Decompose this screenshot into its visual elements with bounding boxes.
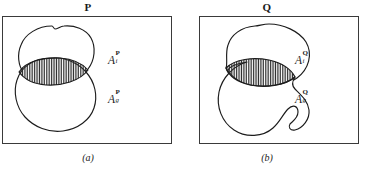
panel-b-diagram [185,0,371,175]
set-label-b-i-subscript: i [303,58,305,65]
set-label-b-i-scripts: Qi [303,53,309,64]
set-label-b-g: AQg [295,92,309,106]
set-label-a-g: APg [108,92,122,106]
set-label-a-i-base: A [108,54,115,66]
set-label-a-g-superscript: P [116,89,120,96]
panel-a: P APi APg [0,0,186,175]
set-label-b-i: AQi [295,53,309,67]
set-label-a-g-base: A [108,93,115,105]
panel-b: Q AQi AQg [185,0,371,175]
set-label-b-i-base: A [295,54,302,66]
set-label-b-g-subscript: g [303,97,307,104]
set-label-b-g-base: A [295,93,302,105]
panel-a-diagram [0,0,186,175]
set-label-a-i: APi [108,53,122,67]
set-label-a-i-scripts: Pi [116,53,122,64]
set-label-a-i-superscript: P [116,50,120,57]
set-label-a-i-subscript: i [116,58,118,65]
set-label-b-g-scripts: Qg [303,92,309,103]
set-label-a-g-subscript: g [116,97,120,104]
panel-a-caption: (a) [0,152,181,164]
set-label-a-g-scripts: Pg [116,92,122,103]
figure-two-panel-set-diagram: P APi APg [0,0,371,175]
set-label-b-g-superscript: Q [303,89,308,96]
panel-b-caption: (b) [174,152,360,164]
set-label-b-i-superscript: Q [303,50,308,57]
